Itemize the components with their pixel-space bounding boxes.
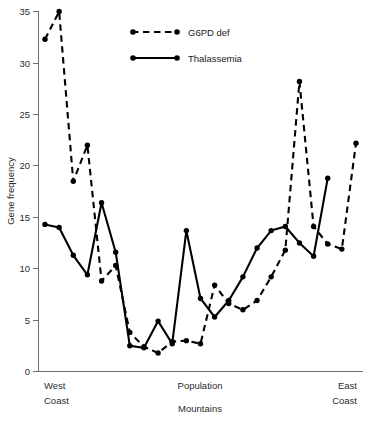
y-tick-label-25: 25 (19, 109, 30, 120)
y-tick-label-35: 35 (19, 6, 30, 17)
series-line-thalassemia (45, 178, 328, 348)
x-label-east-coast-line1: East (338, 380, 357, 391)
data-point (198, 296, 203, 301)
legend-marker-thalassemia-end (174, 55, 180, 61)
x-label-east-coast-line2: Coast (332, 395, 357, 406)
y-tick-label-30: 30 (19, 58, 30, 69)
data-point (85, 272, 90, 277)
data-point (240, 307, 245, 312)
data-point (141, 345, 146, 350)
data-point (311, 254, 316, 259)
y-tick-label-15: 15 (19, 212, 30, 223)
data-point (42, 37, 47, 42)
data-point (353, 140, 358, 145)
data-point (155, 318, 160, 323)
gene-frequency-line-chart: 35 30 25 20 15 10 5 0 Gene frequency Wes… (0, 0, 370, 422)
x-label-west-coast-line2: Coast (44, 395, 69, 406)
y-axis-title: Gene frequency (5, 157, 16, 225)
data-point (170, 341, 175, 346)
data-point (184, 338, 189, 343)
data-point (268, 274, 273, 279)
data-point (56, 225, 61, 230)
data-point (339, 246, 344, 251)
data-point (325, 175, 330, 180)
data-point (42, 222, 47, 227)
data-point (283, 224, 288, 229)
legend-label-g6pd: G6PD def (188, 27, 230, 38)
data-point (198, 341, 203, 346)
x-label-west-coast-line1: West (44, 380, 66, 391)
legend-marker-thalassemia-start (130, 55, 136, 61)
data-point (71, 179, 76, 184)
y-tick-label-5: 5 (25, 315, 30, 326)
data-point (283, 247, 288, 252)
y-tick-label-10: 10 (19, 263, 30, 274)
x-label-population: Population (178, 380, 223, 391)
data-point (226, 298, 231, 303)
data-point (113, 249, 118, 254)
legend-marker-g6pd-start (130, 29, 136, 35)
data-point (268, 228, 273, 233)
data-point (56, 9, 61, 14)
chart-figure: 35 30 25 20 15 10 5 0 Gene frequency Wes… (0, 0, 370, 422)
data-point (212, 314, 217, 319)
y-tick-label-20: 20 (19, 160, 30, 171)
data-point (85, 143, 90, 148)
series-thalassemia (42, 175, 330, 350)
legend-marker-g6pd-end (174, 29, 180, 35)
data-point (184, 228, 189, 233)
data-point (297, 79, 302, 84)
data-point (99, 278, 104, 283)
data-point (212, 282, 217, 287)
data-point (254, 245, 259, 250)
y-axis-ticks (33, 12, 39, 372)
data-point (71, 253, 76, 258)
data-point (311, 224, 316, 229)
data-point (297, 240, 302, 245)
data-point (99, 200, 104, 205)
data-point (127, 343, 132, 348)
x-label-mountains: Mountains (178, 403, 222, 414)
data-point (325, 241, 330, 246)
data-point (240, 274, 245, 279)
legend-label-thalassemia: Thalassemia (188, 53, 243, 64)
y-tick-label-0: 0 (25, 366, 30, 377)
data-point (155, 350, 160, 355)
data-point (254, 298, 259, 303)
chart-legend: G6PD def Thalassemia (130, 27, 242, 64)
